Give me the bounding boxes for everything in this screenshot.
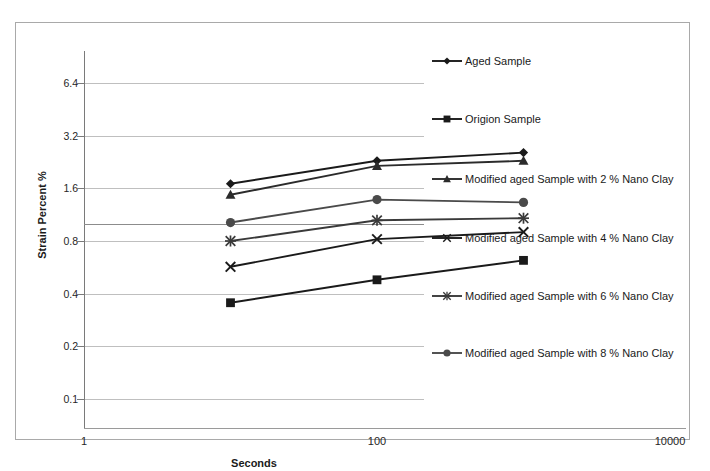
- legend-marker-icon: [430, 231, 464, 245]
- legend-entry[interactable]: Modified aged Sample with 8 % Nano Clay: [430, 345, 674, 361]
- y-tick-mark: [77, 136, 85, 137]
- legend-label: Modified aged Sample with 6 % Nano Clay: [465, 290, 674, 302]
- gridline: [84, 294, 424, 295]
- legend-label: Origion Sample: [465, 113, 541, 125]
- legend-marker-icon: [430, 346, 464, 360]
- category-axis-line: [84, 428, 686, 429]
- y-tick-mark: [77, 83, 85, 84]
- legend-marker-icon: [430, 172, 464, 186]
- y-tick-label: 0.4: [34, 288, 78, 300]
- legend-marker-icon: [430, 289, 464, 303]
- gridline: [84, 346, 424, 347]
- x-tick-label: 1: [81, 435, 87, 447]
- legend-label: Aged Sample: [465, 55, 531, 67]
- gridline: [84, 241, 424, 242]
- legend-label: Modified aged Sample with 4 % Nano Clay: [465, 232, 674, 244]
- y-tick-mark: [77, 188, 85, 189]
- gridline: [84, 83, 424, 84]
- legend-entry[interactable]: Aged Sample: [430, 53, 531, 69]
- legend-marker-icon: [430, 112, 464, 126]
- legend-label: Modified aged Sample with 2 % Nano Clay: [465, 173, 674, 185]
- gridline: [84, 399, 424, 400]
- y-tick-label: 0.2: [34, 340, 78, 352]
- x-axis-title: Seconds: [84, 457, 424, 469]
- y-tick-mark: [77, 294, 85, 295]
- y-tick-mark: [77, 399, 85, 400]
- chart-figure: 6.43.21.60.80.40.20.1 110010000 Strain P…: [15, 22, 690, 440]
- legend-entry[interactable]: Modified aged Sample with 4 % Nano Clay: [430, 230, 674, 246]
- gridline: [84, 136, 424, 137]
- value-axis-labels: 6.43.21.60.80.40.20.1: [20, 23, 78, 471]
- x-tick-label: 10000: [655, 435, 686, 447]
- y-tick-label: 0.1: [34, 393, 78, 405]
- legend-marker-icon: [430, 54, 464, 68]
- plot-area: [84, 51, 424, 428]
- y-tick-label: 3.2: [34, 130, 78, 142]
- y-axis-title: Strain Percent %: [36, 155, 48, 275]
- y-tick-mark: [77, 346, 85, 347]
- legend-label: Modified aged Sample with 8 % Nano Clay: [465, 347, 674, 359]
- x-tick-label: 100: [368, 435, 386, 447]
- legend-entry[interactable]: Modified aged Sample with 6 % Nano Clay: [430, 288, 674, 304]
- y-tick-label: 6.4: [34, 77, 78, 89]
- gridline: [84, 188, 424, 189]
- legend-entry[interactable]: Modified aged Sample with 2 % Nano Clay: [430, 171, 674, 187]
- y-tick-mark: [77, 241, 85, 242]
- chart-legend: Aged SampleOrigion SampleModified aged S…: [430, 49, 685, 379]
- legend-entry[interactable]: Origion Sample: [430, 111, 541, 127]
- gridline-emphasis: [84, 224, 424, 225]
